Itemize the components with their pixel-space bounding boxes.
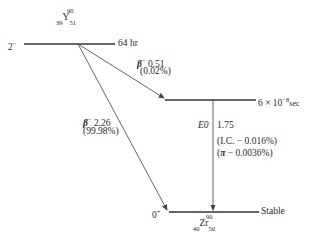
daughter-mass: 90 <box>206 213 213 220</box>
e0-type-label: E0 <box>198 120 209 131</box>
parent-nuclide-label: 39Y5190 <box>56 12 82 28</box>
daughter-spin: 0+ <box>152 206 160 221</box>
daughter-n: 50 <box>208 225 215 232</box>
intermediate-half-life-unit: sec <box>289 99 299 108</box>
beta-226-branch: (99.98%) <box>83 126 119 137</box>
e0-type: E0 <box>198 120 209 130</box>
daughter-half-life: Stable <box>261 206 285 217</box>
parent-mass: 90 <box>67 7 74 14</box>
intermediate-half-life: 6 × 10−8sec <box>258 94 300 109</box>
beta-charge: − <box>88 116 92 123</box>
pi-value: − 0.0036%) <box>225 148 272 158</box>
parent-n: 51 <box>69 19 76 26</box>
parent-spin: 2− <box>8 38 16 53</box>
beta-charge: − <box>142 57 146 64</box>
e0-pi-branch: (π − 0.0036%) <box>217 148 273 159</box>
e0-ic-branch: (I.C. − 0.016%) <box>217 136 277 147</box>
parent-parity: − <box>13 40 17 47</box>
parent-half-life: 64 hr <box>118 38 138 49</box>
beta-051-branch: (0.02%) <box>140 66 171 77</box>
daughter-parity: + <box>157 208 161 215</box>
intermediate-half-life-base: 6 × 10 <box>258 98 282 108</box>
daughter-nuclide-label: 40Zr5090 <box>193 218 221 234</box>
e0-energy: 1.75 <box>217 120 234 131</box>
